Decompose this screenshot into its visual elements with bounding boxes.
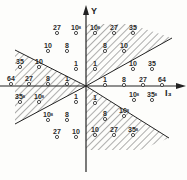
lattice-point-marker bbox=[131, 133, 134, 136]
lattice-point-marker bbox=[74, 100, 77, 103]
point-label: 1 bbox=[93, 60, 97, 67]
lattice-point-marker bbox=[93, 133, 96, 136]
point-label: 64 bbox=[7, 75, 15, 82]
point-label: 27 bbox=[53, 128, 61, 135]
lattice-point-marker bbox=[46, 49, 49, 52]
lattice-point-marker bbox=[150, 67, 153, 70]
x-axis-arrow-icon bbox=[176, 83, 186, 89]
lattice-point-marker bbox=[160, 83, 163, 86]
point-label: 8 bbox=[103, 42, 107, 49]
point-label: 8 bbox=[46, 75, 50, 82]
point-label: 108 bbox=[90, 24, 100, 31]
lattice-point-marker bbox=[65, 82, 68, 85]
lattice-point-marker bbox=[18, 65, 21, 68]
point-label: 27 bbox=[53, 24, 61, 31]
point-label: 358 bbox=[147, 91, 157, 98]
lattice-point-marker bbox=[74, 31, 77, 34]
point-label: 8 bbox=[65, 42, 69, 49]
point-label: 10 bbox=[44, 42, 52, 49]
y-axis-label: Y bbox=[91, 6, 97, 16]
lattice-point-marker bbox=[55, 31, 58, 34]
lattice-point-marker bbox=[103, 83, 106, 86]
point-label: 10 bbox=[72, 128, 80, 135]
point-label: 108 bbox=[71, 24, 81, 31]
point-label: 35 bbox=[16, 58, 24, 65]
lattice-point-marker bbox=[131, 31, 134, 34]
point-label: 27 bbox=[25, 75, 33, 82]
lattice-point-marker bbox=[18, 100, 21, 103]
point-label: 108 bbox=[119, 107, 129, 114]
point-label: 27 bbox=[139, 76, 147, 83]
point-label: 10 bbox=[129, 60, 137, 67]
lattice-point-marker bbox=[103, 49, 106, 52]
point-label: 64 bbox=[158, 76, 166, 83]
point-label: 1 bbox=[103, 76, 107, 83]
lattice-point-marker bbox=[37, 100, 40, 103]
lattice-point-marker bbox=[65, 118, 68, 121]
lattice-point-marker bbox=[93, 31, 96, 34]
lattice-point-marker bbox=[74, 135, 77, 138]
point-label: 8 bbox=[103, 110, 107, 117]
lattice-point-marker bbox=[65, 49, 68, 52]
lattice-point-marker bbox=[122, 83, 125, 86]
lattice-point-marker bbox=[132, 98, 135, 101]
point-label: 1 bbox=[74, 93, 78, 100]
point-label: 358 bbox=[15, 93, 25, 100]
weight-diagram: 2710810813510642781358108110882710108273… bbox=[0, 0, 187, 180]
lattice-point-marker bbox=[9, 82, 12, 85]
point-label: 8 bbox=[122, 76, 126, 83]
lattice-point-marker bbox=[93, 67, 96, 70]
lattice-point-marker bbox=[93, 101, 96, 104]
point-label: 10 bbox=[91, 126, 99, 133]
lattice-point-marker bbox=[150, 98, 153, 101]
point-label: 1 bbox=[93, 94, 97, 101]
y-axis-arrow-icon bbox=[83, 5, 89, 15]
lattice-point-marker bbox=[122, 49, 125, 52]
x-axis-label: I₃ bbox=[165, 88, 172, 98]
lattice-point-marker bbox=[141, 83, 144, 86]
lattice-point-marker bbox=[55, 135, 58, 138]
point-label: 35 bbox=[148, 60, 156, 67]
point-label: 8 bbox=[65, 111, 69, 118]
lattice-point-marker bbox=[112, 133, 115, 136]
lattice-point-marker bbox=[27, 82, 30, 85]
point-label: 27 bbox=[110, 126, 118, 133]
point-label: 1 bbox=[65, 75, 69, 82]
point-label: 108 bbox=[34, 93, 44, 100]
lattice-point-marker bbox=[74, 67, 77, 70]
point-label: 108 bbox=[43, 111, 53, 118]
lattice-point-marker bbox=[103, 117, 106, 120]
lattice-point-marker bbox=[112, 31, 115, 34]
point-label: 35 bbox=[129, 24, 137, 31]
lattice-point-marker bbox=[131, 67, 134, 70]
lattice-point-marker bbox=[37, 65, 40, 68]
point-label: 10 bbox=[35, 58, 43, 65]
lattice-point-marker bbox=[46, 82, 49, 85]
point-label: 358 bbox=[128, 126, 138, 133]
lattice-point-marker bbox=[122, 114, 125, 117]
point-label: 1 bbox=[74, 60, 78, 67]
point-label: 27 bbox=[110, 24, 118, 31]
point-label: 108 bbox=[129, 91, 139, 98]
point-label: 10 bbox=[120, 42, 128, 49]
lattice-point-marker bbox=[46, 118, 49, 121]
